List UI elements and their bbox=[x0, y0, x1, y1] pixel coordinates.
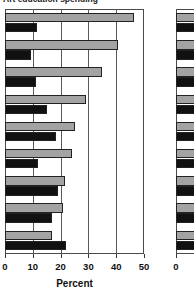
bars-layer-right bbox=[176, 9, 194, 254]
bar-gray-group-6 bbox=[5, 149, 72, 159]
bar-black-group-3 bbox=[5, 77, 36, 87]
bar-black-group-4 bbox=[176, 105, 194, 115]
bar-black-group-4 bbox=[5, 105, 47, 115]
tick-40 bbox=[116, 254, 117, 258]
bar-gray-group-1 bbox=[176, 13, 194, 23]
bars-layer bbox=[5, 9, 144, 254]
tick-label-right-0: 0 bbox=[173, 261, 178, 272]
chart-title-cropped: Art education spending bbox=[3, 0, 123, 5]
chart-panel-right-clipped bbox=[176, 9, 194, 254]
bar-black-group-7 bbox=[5, 186, 58, 196]
bar-black-group-2 bbox=[5, 50, 31, 60]
bar-gray-group-4 bbox=[5, 95, 86, 105]
bar-gray-group-7 bbox=[5, 176, 65, 186]
bar-gray-group-9 bbox=[5, 231, 52, 241]
bar-black-group-1 bbox=[176, 23, 194, 33]
bar-black-group-6 bbox=[176, 159, 194, 169]
bar-black-group-9 bbox=[5, 241, 66, 251]
tick-label-20: 20 bbox=[55, 261, 66, 272]
bar-black-group-5 bbox=[5, 132, 56, 142]
bar-black-group-9 bbox=[176, 241, 194, 251]
bar-black-group-1 bbox=[5, 23, 37, 33]
tick-right-0 bbox=[176, 254, 177, 258]
bar-gray-group-1 bbox=[5, 13, 134, 23]
tick-50 bbox=[144, 254, 145, 258]
tick-label-0: 0 bbox=[2, 261, 7, 272]
bar-gray-group-5 bbox=[5, 122, 75, 132]
bar-gray-group-2 bbox=[5, 40, 118, 50]
tick-label-30: 30 bbox=[83, 261, 94, 272]
bar-black-group-3 bbox=[176, 77, 194, 87]
bar-gray-group-3 bbox=[176, 67, 194, 77]
bar-gray-group-2 bbox=[176, 40, 194, 50]
bar-black-group-8 bbox=[5, 213, 52, 223]
bar-black-group-6 bbox=[5, 159, 38, 169]
tick-20 bbox=[61, 254, 62, 258]
bar-black-group-2 bbox=[176, 50, 194, 60]
bar-gray-group-8 bbox=[5, 203, 63, 213]
chart-title-text: Art education spending bbox=[3, 0, 123, 5]
chart-figure: Art education spending 01020304050 Perce… bbox=[0, 0, 194, 289]
x-axis-title: Percent bbox=[56, 278, 93, 289]
bar-gray-group-9 bbox=[176, 231, 194, 241]
tick-0 bbox=[5, 254, 6, 258]
bar-gray-group-6 bbox=[176, 149, 194, 159]
bar-gray-group-7 bbox=[176, 176, 194, 186]
bar-gray-group-4 bbox=[176, 95, 194, 105]
chart-panel-main bbox=[5, 9, 144, 254]
bar-gray-group-5 bbox=[176, 122, 194, 132]
tick-label-10: 10 bbox=[28, 261, 39, 272]
bar-gray-group-8 bbox=[176, 203, 194, 213]
bar-black-group-8 bbox=[176, 213, 194, 223]
bar-black-group-7 bbox=[176, 186, 194, 196]
tick-label-40: 40 bbox=[111, 261, 122, 272]
bar-black-group-5 bbox=[176, 132, 194, 142]
tick-30 bbox=[88, 254, 89, 258]
bar-gray-group-3 bbox=[5, 67, 102, 77]
tick-10 bbox=[33, 254, 34, 258]
tick-label-50: 50 bbox=[139, 261, 150, 272]
